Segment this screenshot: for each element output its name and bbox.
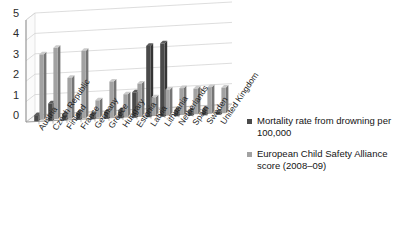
legend-label: European Child Safety Alliance score (20… (257, 148, 409, 172)
x-axis-labels: AustriaCzech RepublicFinlandFranceGerman… (0, 0, 260, 234)
legend-swatch-icon (247, 119, 252, 124)
legend-item-safety-score: European Child Safety Alliance score (20… (247, 148, 413, 172)
chart-legend: Mortality rate from drowning per 100,000… (247, 115, 413, 181)
legend-label: Mortality rate from drowning per 100,000 (257, 115, 409, 139)
legend-swatch-icon (247, 152, 252, 157)
legend-item-mortality-rate: Mortality rate from drowning per 100,000 (247, 115, 413, 139)
chart-figure: 5 4 3 2 1 0 (0, 0, 413, 234)
